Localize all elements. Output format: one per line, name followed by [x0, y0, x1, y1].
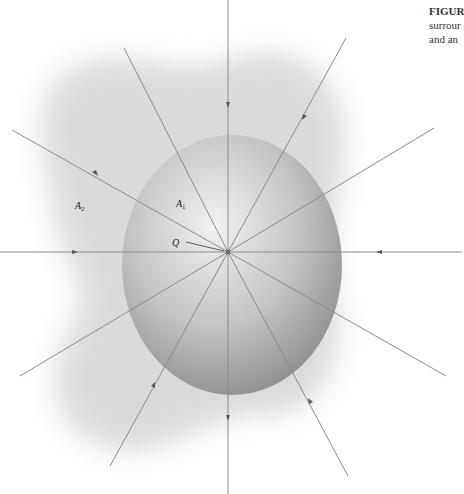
charge-point — [226, 250, 230, 254]
arrow-icon — [376, 250, 382, 254]
inner-sphere-a1 — [122, 135, 342, 395]
charge-label: Q — [172, 237, 180, 248]
